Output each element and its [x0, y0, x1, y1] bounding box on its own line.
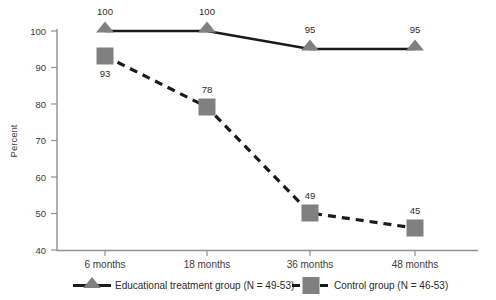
data-marker-triangle: [301, 40, 319, 51]
legend-square-icon: [303, 277, 320, 294]
data-marker-triangle: [198, 22, 216, 33]
data-marker-square: [97, 48, 114, 65]
legend-item-educational-treatment[interactable]: Educational treatment group (N = 49-53): [73, 277, 294, 291]
series-control-group-line: [105, 56, 415, 228]
data-marker-triangle: [406, 40, 424, 51]
chart-container: 100 90 80 70 60 50 40 Percent 6 months 1…: [0, 0, 496, 300]
data-label-edu-48mo: 95: [410, 24, 421, 35]
series-educational-treatment-line: [105, 31, 415, 49]
data-marker-triangle: [96, 22, 114, 33]
data-marker-square: [199, 99, 216, 116]
y-axis-ticks: [51, 31, 57, 250]
data-label-ctrl-48mo: 45: [410, 205, 421, 216]
y-tick-label-100: 100: [30, 26, 46, 37]
legend-triangle-icon: [83, 277, 101, 288]
data-label-ctrl-36mo: 49: [305, 190, 316, 201]
line-chart: 100 90 80 70 60 50 40 Percent 6 months 1…: [0, 0, 496, 300]
legend-item-control-group[interactable]: Control group (N = 46-53): [292, 277, 448, 294]
legend-label-educational-treatment: Educational treatment group (N = 49-53): [115, 280, 294, 291]
y-tick-label-50: 50: [35, 208, 46, 219]
data-label-ctrl-18mo: 78: [202, 84, 213, 95]
data-label-ctrl-6mo: 93: [100, 68, 111, 79]
y-tick-label-80: 80: [35, 99, 46, 110]
y-tick-label-60: 60: [35, 172, 46, 183]
x-tick-label-36-months: 36 months: [287, 259, 334, 270]
y-tick-label-40: 40: [35, 245, 46, 256]
data-marker-square: [302, 205, 319, 222]
x-tick-label-48-months: 48 months: [392, 259, 439, 270]
legend-label-control-group: Control group (N = 46-53): [334, 280, 448, 291]
y-axis-title: Percent: [8, 124, 19, 157]
chart-legend: Educational treatment group (N = 49-53) …: [73, 277, 448, 294]
x-tick-label-18-months: 18 months: [184, 259, 231, 270]
data-label-edu-18mo: 100: [199, 6, 215, 17]
x-tick-label-6-months: 6 months: [84, 259, 125, 270]
data-marker-square: [407, 220, 424, 237]
y-tick-label-70: 70: [35, 135, 46, 146]
data-label-edu-6mo: 100: [97, 6, 113, 17]
y-tick-label-90: 90: [35, 62, 46, 73]
series-educational-treatment-markers: [96, 22, 424, 51]
data-label-edu-36mo: 95: [305, 24, 316, 35]
